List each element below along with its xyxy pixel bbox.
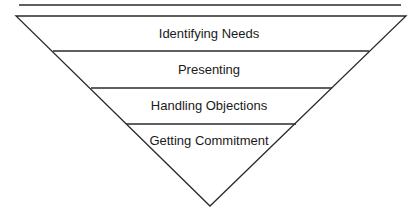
stage-label-getting-commitment: Getting Commitment xyxy=(0,133,418,148)
stage-label-presenting: Presenting xyxy=(0,62,418,77)
stage-label-handling-objections: Handling Objections xyxy=(0,98,418,113)
stage-label-identifying-needs: Identifying Needs xyxy=(0,26,418,41)
